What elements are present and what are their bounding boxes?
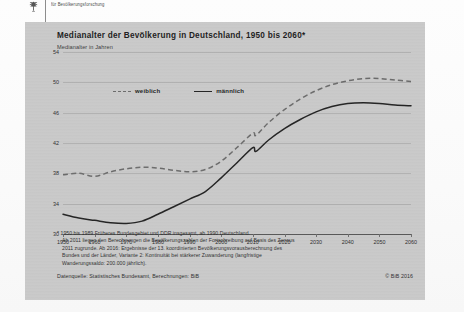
copyright-notice: © BiB 2016	[385, 273, 413, 279]
chart-panel: Medianalter der Bevölkerung in Deutschla…	[25, 22, 425, 300]
footnote-line-2: 2011 zugrunde. Ab 2016: Ergebnisse der 1…	[57, 245, 401, 252]
footnote-text-0: 1950 bis 1989 Früheres Bundesgebiet und …	[61, 230, 251, 236]
footnote-line-3: Bundes und der Länder, Variante 2: Konti…	[57, 252, 401, 259]
series-line-weiblich	[63, 78, 411, 176]
chart-title: Medianalter der Bevölkerung in Deutschla…	[57, 31, 305, 40]
y-tick-label-46: 46	[35, 109, 59, 115]
footnote-line-4: Wanderungssaldo: 200.000 jährlich).	[57, 260, 401, 267]
y-tick-label-42: 42	[35, 140, 59, 146]
y-tick-label-38: 38	[35, 170, 59, 176]
german-eagle-icon	[27, 1, 40, 12]
footnote-block: * 1950 bis 1989 Früheres Bundesgebiet un…	[57, 230, 401, 267]
chart-subtitle: Medianalter in Jahren	[57, 44, 113, 50]
data-series	[63, 52, 411, 234]
y-tick-label-54: 54	[35, 49, 59, 55]
logo-divider	[45, 0, 46, 22]
footnote-line-0: * 1950 bis 1989 Früheres Bundesgebiet un…	[57, 230, 401, 237]
source-row: Datenquelle: Statistisches Bundesamt, Be…	[57, 273, 413, 279]
series-line-maennlich	[63, 103, 411, 224]
y-tick-label-34: 34	[35, 200, 59, 206]
footnote-marker: *	[57, 230, 59, 236]
organization-name: für Bevölkerungsforschung	[51, 1, 105, 8]
y-tick-label-50: 50	[35, 79, 59, 85]
y-tick-label-30: 30	[35, 231, 59, 237]
document-header: für Bevölkerungsforschung	[0, 0, 464, 22]
x-tick-label-2060: 2060	[398, 239, 424, 245]
x-tick-mark-2060	[411, 234, 412, 237]
data-source: Datenquelle: Statistisches Bundesamt, Be…	[57, 273, 199, 279]
footnote-line-1: Ab 2011 liegen den Berechnungen die Bevö…	[57, 237, 401, 244]
plot-area: 54504642383430 1950196019701980199020002…	[63, 52, 411, 234]
scanned-page: für Bevölkerungsforschung Medianalter de…	[0, 0, 464, 312]
